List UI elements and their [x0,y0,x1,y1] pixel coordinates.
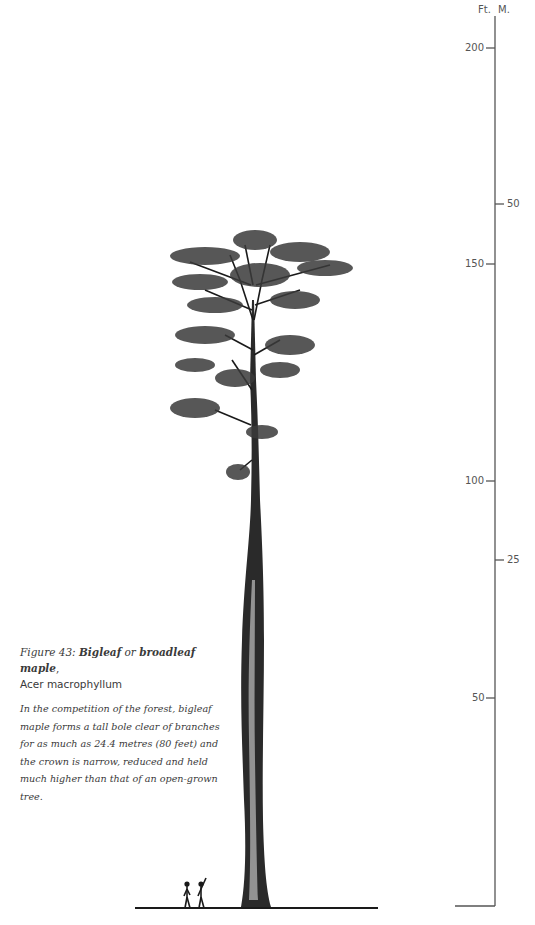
common-name-primary: Bigleaf [79,646,121,658]
feet-tick-100: 100 [465,475,484,486]
metres-header: M. [498,4,510,15]
feet-tick-150: 150 [465,258,484,269]
scientific-name: Acer macrophyllum [20,678,122,690]
height-scale-axis [455,16,504,906]
figure-number: Figure 43: [20,646,76,658]
feet-tick-50: 50 [472,692,485,703]
human-figure-icon [184,882,190,908]
figure-caption: Figure 43: Bigleaf or broadleaf maple, A… [20,644,235,805]
metre-tick-50: 50 [507,198,520,209]
caption-title: Figure 43: Bigleaf or broadleaf maple, A… [20,644,235,692]
feet-tick-200: 200 [465,42,484,53]
caption-description: In the competition of the forest, biglea… [20,700,235,805]
human-figure-pointing-icon [198,878,206,908]
caption-connector: or [125,646,136,658]
tree-trunk [241,300,271,907]
tree-crown-foliage [170,230,353,480]
caption-comma: , [56,662,59,674]
feet-header: Ft. [478,4,491,15]
metre-tick-25: 25 [507,554,520,565]
